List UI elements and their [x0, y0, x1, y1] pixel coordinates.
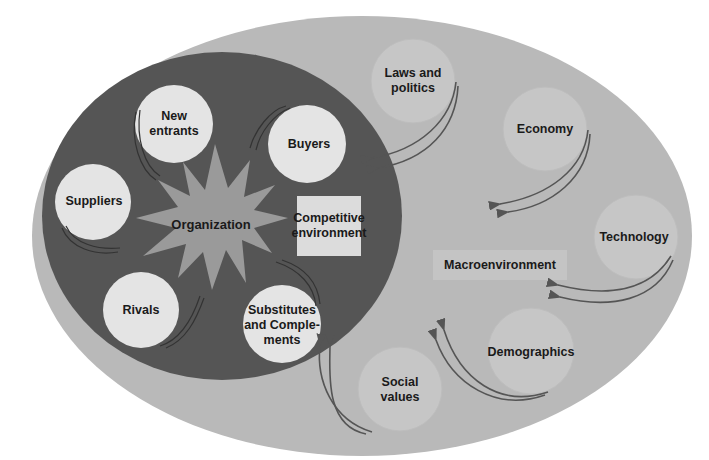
laws-label: Laws and politics [385, 66, 442, 96]
suppliers-label: Suppliers [66, 194, 123, 209]
social-values-label: Social values [381, 375, 420, 405]
technology-label: Technology [599, 230, 668, 245]
new-entrants-label: New entrants [149, 109, 198, 139]
macroenvironment-label: Macroenvironment [444, 258, 556, 273]
organization-label: Organization [171, 217, 250, 232]
buyers-label: Buyers [288, 137, 330, 152]
rivals-label: Rivals [123, 303, 160, 318]
substitutes-label: Substitutes and Comple- ments [244, 303, 320, 348]
economy-label: Economy [517, 122, 573, 137]
demographics-label: Demographics [488, 345, 575, 360]
competitive-environment-label: Competitive environment [291, 211, 366, 241]
